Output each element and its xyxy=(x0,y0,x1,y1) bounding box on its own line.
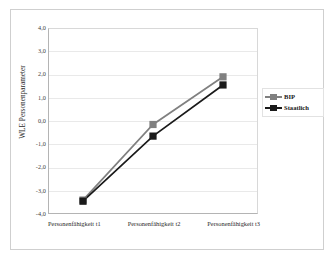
data-point-marker xyxy=(149,133,156,140)
series-line-staatlich xyxy=(83,85,223,201)
legend-marker-icon xyxy=(265,92,282,101)
x-axis-tick-label: Personenfähigkeit t2 xyxy=(128,220,181,228)
data-point-marker xyxy=(149,121,156,128)
legend-item-label: BIP xyxy=(282,93,295,100)
x-axis-tick-label: Personenfähigkeit t1 xyxy=(48,220,101,228)
x-axis-tick-label: Personenfähigkeit t3 xyxy=(207,220,260,228)
legend-item-staatlich[interactable]: Staatlich xyxy=(264,102,322,113)
data-point-marker xyxy=(79,198,86,205)
x-axis-tick-labels: Personenfähigkeit t1Personenfähigkeit t2… xyxy=(48,220,260,228)
legend-item-label: Staatlich xyxy=(282,104,309,111)
legend-marker-icon xyxy=(265,103,282,112)
data-point-marker xyxy=(219,81,226,88)
chart-legend: BIPStaatlich xyxy=(262,88,324,117)
data-point-marker xyxy=(219,73,226,80)
chart-figure: WLE Personenparameter 4,03,02,01,00,0-1,… xyxy=(0,0,335,261)
legend-item-bip[interactable]: BIP xyxy=(264,91,322,102)
